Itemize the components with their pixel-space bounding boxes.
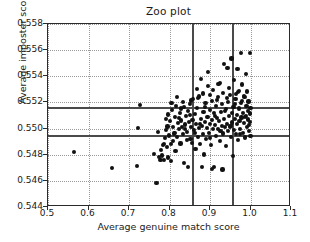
scatter-point [135,164,139,168]
scatter-point [201,110,205,114]
scatter-point [248,106,252,110]
y-tick-mark [43,128,47,129]
chart-title: Zoo plot [47,5,290,17]
scatter-point [233,97,237,101]
scatter-point [166,112,170,116]
scatter-point [154,181,158,185]
scatter-point [224,144,228,148]
scatter-point [193,147,197,151]
scatter-point [227,86,231,90]
scatter-point [220,167,224,171]
scatter-point [247,123,251,127]
scatter-point [162,142,166,146]
scatter-point [209,143,213,147]
y-tick-label: 0.548 [17,149,43,159]
y-tick-mark [43,101,47,102]
scatter-point [210,118,214,122]
scatter-point [160,153,164,157]
scatter-point [169,101,173,105]
gridline-vertical [129,24,130,205]
scatter-point [195,106,199,110]
scatter-point [214,134,218,138]
x-tick-mark [47,206,48,210]
x-tick-mark [128,206,129,210]
scatter-point [136,126,140,130]
scatter-point [195,87,199,91]
scatter-point [230,111,234,115]
y-tick-label: 0.544 [17,201,43,211]
scatter-point [110,166,114,170]
gridline-horizontal [48,50,289,51]
gridline-horizontal [48,24,289,25]
scatter-point [168,119,172,123]
gridline-horizontal [48,76,289,77]
x-tick-mark [250,206,251,210]
scatter-point [239,51,243,55]
scatter-point [208,136,212,140]
scatter-point [248,134,252,138]
scatter-point [208,108,212,112]
scatter-point [171,139,175,143]
x-axis-label: Average genuine match score [47,221,290,232]
scatter-point [245,89,249,93]
scatter-point [226,129,230,133]
scatter-point [234,92,238,96]
scatter-point [173,149,177,153]
scatter-point [175,95,179,99]
scatter-point [231,154,235,158]
scatter-point [198,142,202,146]
y-axis-label: Average imposter score [17,0,28,138]
scatter-point [203,105,207,109]
scatter-point [178,111,182,115]
plot-area [47,23,290,206]
y-tick-label: 0.546 [17,175,43,185]
scatter-point [235,113,239,117]
scatter-point [175,135,179,139]
scatter-point [207,131,211,135]
scatter-point [220,102,224,106]
scatter-point [201,91,205,95]
scatter-point [236,138,240,142]
scatter-point [211,88,215,92]
scatter-point [237,106,241,110]
scatter-point [235,67,239,71]
y-tick-mark [43,49,47,50]
scatter-point [208,93,212,97]
zoo-plot-figure: Zoo plot 0.50.60.70.80.91.01.10.5440.546… [0,0,310,242]
scatter-point [196,96,200,100]
scatter-point [222,117,226,121]
scatter-point [226,100,230,104]
scatter-point [178,141,182,145]
scatter-point [186,165,190,169]
scatter-point [203,120,207,124]
scatter-point [223,109,227,113]
scatter-point [229,56,233,60]
scatter-point [244,72,248,76]
x-tick-mark [290,206,291,210]
gridline-horizontal [48,181,289,182]
scatter-point [240,82,244,86]
scatter-point [72,150,76,154]
scatter-point [201,132,205,136]
scatter-point [138,103,142,107]
scatter-point [159,148,163,152]
reference-line-horizontal [48,107,289,108]
gridline-horizontal [48,129,289,130]
scatter-point [173,131,177,135]
scatter-point [200,165,204,169]
scatter-point [210,167,214,171]
scatter-point [216,82,220,86]
scatter-point [242,94,246,98]
scatter-point [199,77,203,81]
scatter-point [248,111,252,115]
scatter-point [217,119,221,123]
scatter-point [169,159,173,163]
scatter-point [179,106,183,110]
scatter-point [165,124,169,128]
scatter-point [218,139,222,143]
scatter-point [243,135,247,139]
gridline-vertical [48,24,49,205]
scatter-point [193,112,197,116]
x-tick-mark [209,206,210,210]
scatter-point [225,66,229,70]
